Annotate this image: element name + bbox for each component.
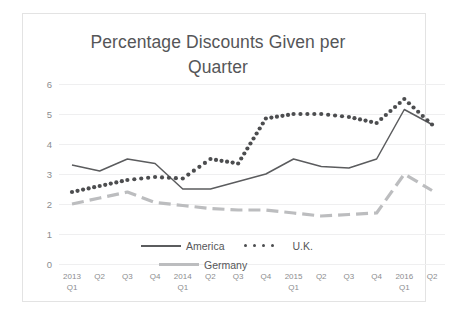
chart-legend: America U.K. Germany xyxy=(141,236,361,274)
x-axis-tick-label: 2013 Q1 xyxy=(63,272,81,293)
x-axis-tick-label: 2016 Q1 xyxy=(395,272,413,293)
y-axis-tick-label: 3 xyxy=(47,169,52,180)
x-axis-tick-label: Q3 xyxy=(122,272,133,283)
legend-item-america[interactable]: America xyxy=(141,240,225,252)
y-axis-tick-label: 6 xyxy=(47,79,52,90)
y-axis-tick-label: 2 xyxy=(47,199,52,210)
legend-row-secondary: Germany xyxy=(141,255,361,274)
legend-label-america: America xyxy=(186,240,225,252)
legend-dots-swatch-uk xyxy=(244,241,288,250)
legend-label-uk: U.K. xyxy=(293,240,313,252)
chart-title: Percentage Discounts Given per Quarter xyxy=(53,30,383,80)
x-axis-tick-label: Q2 xyxy=(94,272,105,283)
y-axis-tick-label: 1 xyxy=(47,229,52,240)
legend-item-uk[interactable]: U.K. xyxy=(244,240,313,252)
x-axis-tick-label: Q4 xyxy=(371,272,382,283)
legend-dash-swatch-germany xyxy=(159,260,199,269)
legend-item-germany[interactable]: Germany xyxy=(159,259,247,271)
x-axis-tick-label: 2014 Q1 xyxy=(174,272,192,293)
series-uk-dots xyxy=(70,97,434,194)
x-axis-tick-label: Q2 xyxy=(427,272,438,283)
x-axis-tick-label: 2015 Q1 xyxy=(285,272,303,293)
y-axis-tick-label: 5 xyxy=(47,109,52,120)
legend-line-swatch-america xyxy=(141,241,181,250)
legend-row-primary: America U.K. xyxy=(141,236,361,255)
y-axis-tick-label: 0 xyxy=(47,259,52,270)
legend-label-germany: Germany xyxy=(204,259,247,271)
chart-card: Percentage Discounts Given per Quarter 0… xyxy=(22,13,426,302)
y-axis-tick-label: 4 xyxy=(47,139,52,150)
